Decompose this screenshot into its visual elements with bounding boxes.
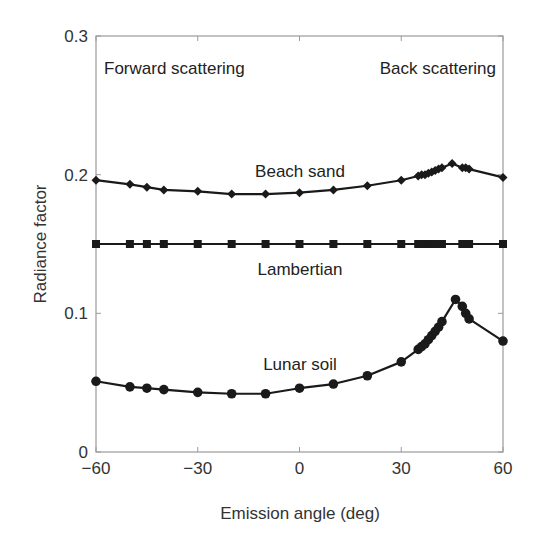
- y-tick-label: 0.1: [64, 304, 88, 323]
- annotation-lambertian: Lambertian: [257, 260, 342, 279]
- x-tick-label: 30: [392, 459, 411, 478]
- square-marker: [465, 240, 473, 248]
- circle-marker: [261, 389, 271, 399]
- y-tick-label: 0.2: [64, 166, 88, 185]
- circle-marker: [498, 336, 508, 346]
- square-marker: [296, 240, 304, 248]
- diamond-marker: [142, 183, 151, 192]
- series-lambertian: [92, 240, 507, 248]
- annotation-lunar-soil: Lunar soil: [263, 355, 337, 374]
- circle-marker: [437, 317, 447, 327]
- circle-marker: [159, 385, 169, 395]
- square-marker: [499, 240, 507, 248]
- chart-canvas: −60−3003060 00.10.20.3 Forward scatterin…: [0, 0, 543, 538]
- square-marker: [363, 240, 371, 248]
- circle-marker: [451, 295, 461, 305]
- annotation-beach-sand: Beach sand: [255, 162, 345, 181]
- annotation-back-scattering: Back scattering: [380, 59, 496, 78]
- square-marker: [228, 240, 236, 248]
- diamond-marker: [397, 176, 406, 185]
- diamond-marker: [193, 187, 202, 196]
- y-tick-label: 0: [79, 443, 88, 462]
- circle-marker: [363, 371, 373, 381]
- square-marker: [438, 240, 446, 248]
- circle-marker: [329, 379, 339, 389]
- circle-marker: [91, 376, 101, 386]
- diamond-marker: [448, 159, 457, 168]
- diamond-marker: [92, 176, 101, 185]
- series-lunar-soil: [91, 295, 508, 399]
- square-marker: [194, 240, 202, 248]
- x-tick-label: −30: [183, 459, 212, 478]
- circle-marker: [142, 383, 152, 393]
- circle-marker: [464, 314, 474, 324]
- circle-marker: [227, 389, 237, 399]
- y-axis-label: Radiance factor: [31, 184, 50, 303]
- circle-marker: [396, 357, 406, 367]
- square-marker: [329, 240, 337, 248]
- diamond-marker: [261, 190, 270, 199]
- x-tick-label: 60: [494, 459, 513, 478]
- x-axis-label: Emission angle (deg): [220, 504, 380, 523]
- y-tick-label: 0.3: [64, 27, 88, 46]
- square-marker: [160, 240, 168, 248]
- diamond-marker: [295, 188, 304, 197]
- circle-marker: [193, 388, 203, 398]
- square-marker: [397, 240, 405, 248]
- circle-marker: [125, 382, 135, 392]
- square-marker: [92, 240, 100, 248]
- diamond-marker: [159, 185, 168, 194]
- square-marker: [262, 240, 270, 248]
- square-marker: [143, 240, 151, 248]
- series-line: [96, 299, 503, 393]
- diamond-marker: [227, 190, 236, 199]
- diamond-marker: [363, 181, 372, 190]
- diamond-marker: [329, 185, 338, 194]
- annotation-forward-scattering: Forward scattering: [104, 59, 245, 78]
- x-tick-label: 0: [295, 459, 304, 478]
- square-marker: [126, 240, 134, 248]
- circle-marker: [295, 383, 305, 393]
- diamond-marker: [125, 180, 134, 189]
- x-axis-ticks: −60−3003060: [82, 36, 513, 478]
